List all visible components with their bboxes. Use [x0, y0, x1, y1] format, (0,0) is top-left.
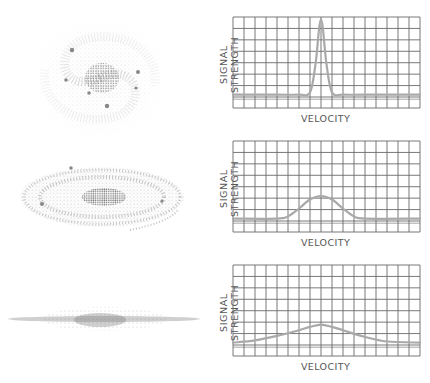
chart-plot-area: [232, 263, 422, 363]
figure-caption: [40, 374, 420, 383]
inclined-galaxy-icon: [0, 140, 215, 250]
x-axis-label: VELOCITY: [232, 113, 419, 124]
face-on-galaxy-icon: [0, 0, 215, 135]
chart-plot-area: [232, 15, 422, 115]
y-axis-label: SIGNAL STRENGTH: [218, 265, 230, 360]
edge-on-galaxy-icon: [0, 290, 215, 350]
y-axis-label: SIGNAL STRENGTH: [218, 17, 230, 112]
edge-on-galaxy-illustration: [0, 290, 215, 350]
inclined-galaxy-illustration: [0, 140, 215, 250]
spectrum-chart-3: SIGNAL STRENGTH VELOCITY: [218, 260, 430, 383]
spectrum-chart-2: SIGNAL STRENGTH VELOCITY: [218, 136, 430, 261]
x-axis-label: VELOCITY: [232, 361, 419, 372]
chart-plot-area: [232, 139, 422, 239]
y-axis-label: SIGNAL STRENGTH: [218, 141, 230, 236]
spectrum-chart-1: SIGNAL STRENGTH VELOCITY: [218, 12, 430, 137]
x-axis-label: VELOCITY: [232, 237, 419, 248]
face-on-galaxy-illustration: [0, 0, 215, 135]
